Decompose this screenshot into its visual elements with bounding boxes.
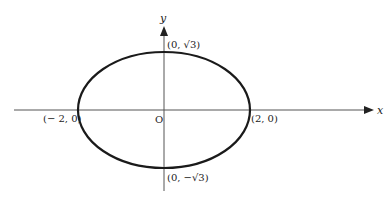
point-top-label: (0, √3) [167, 39, 200, 50]
y-axis-arrow-icon [160, 26, 168, 36]
x-axis-arrow-icon [364, 106, 374, 114]
origin-label: O [155, 114, 163, 125]
y-axis-label: y [159, 12, 167, 25]
point-right-label: (2, 0) [251, 113, 278, 124]
point-left-label: (− 2, 0) [43, 113, 82, 124]
ellipse-diagram: x y O (0, √3) (0, −√3) (− 2, 0) (2, 0) [0, 0, 385, 198]
x-axis-label: x [377, 104, 384, 117]
point-bottom-label: (0, −√3) [167, 172, 209, 183]
